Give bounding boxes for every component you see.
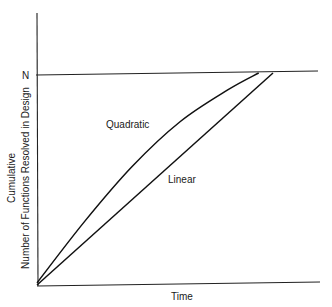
ceiling-line-n [36,71,318,75]
linear-line [37,73,273,285]
quadratic-label: Quadratic [106,119,149,130]
linear-label: Linear [168,174,196,185]
y-tick-n: N [22,70,29,81]
y-axis-label-line1: Cumulative [6,153,17,203]
y-axis-label-line2: Number of Functions Resolved in Design [20,87,31,269]
chart: N Quadratic Linear Time Cumulative Numbe… [0,0,332,307]
quadratic-curve [37,73,259,283]
x-axis [37,282,320,286]
x-axis-label: Time [171,291,193,302]
y-axis [37,13,38,286]
